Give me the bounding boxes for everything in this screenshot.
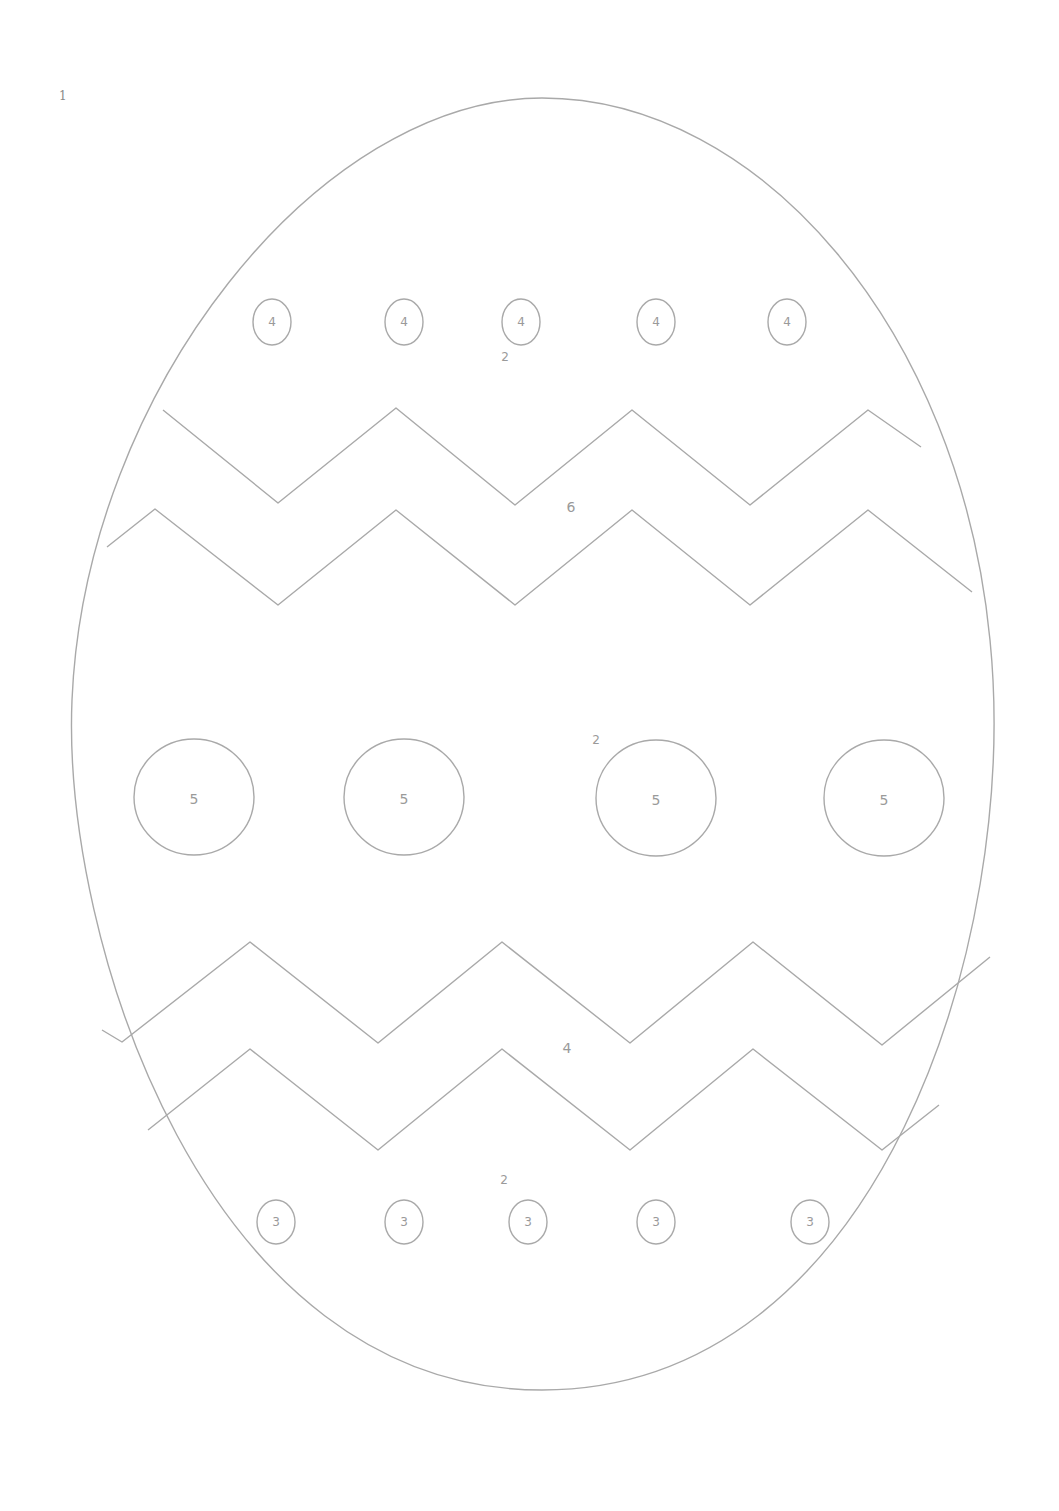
svg-text:3: 3 bbox=[400, 1215, 408, 1229]
upper-band-top-zigzag bbox=[163, 408, 921, 505]
dot-region: 4 bbox=[768, 299, 806, 345]
middle-dots-row: 5 5 5 5 bbox=[134, 739, 944, 856]
svg-text:3: 3 bbox=[806, 1215, 814, 1229]
dot-region: 4 bbox=[637, 299, 675, 345]
dot-region: 3 bbox=[791, 1200, 829, 1244]
dot-region: 4 bbox=[502, 299, 540, 345]
dot-region: 5 bbox=[596, 740, 716, 856]
svg-text:4: 4 bbox=[268, 315, 276, 329]
dot-region: 3 bbox=[637, 1200, 675, 1244]
bottom-dots-row: 3 3 3 3 3 bbox=[257, 1200, 829, 1244]
upper-band-bottom-zigzag bbox=[107, 509, 972, 605]
svg-text:4: 4 bbox=[517, 315, 525, 329]
region-label-bottom: 2 bbox=[500, 1173, 508, 1187]
dot-region: 3 bbox=[385, 1200, 423, 1244]
dot-region: 3 bbox=[509, 1200, 547, 1244]
dot-region: 3 bbox=[257, 1200, 295, 1244]
dot-region: 5 bbox=[824, 740, 944, 856]
egg-outline bbox=[72, 98, 994, 1390]
dot-region: 4 bbox=[385, 299, 423, 345]
region-label-upper-band: 6 bbox=[567, 499, 576, 515]
svg-text:5: 5 bbox=[880, 792, 889, 808]
svg-text:3: 3 bbox=[652, 1215, 660, 1229]
top-dots-row: 4 4 4 4 4 bbox=[253, 299, 806, 345]
region-label-middle: 2 bbox=[592, 733, 600, 747]
region-label-top: 2 bbox=[501, 350, 509, 364]
svg-text:3: 3 bbox=[524, 1215, 532, 1229]
dot-region: 5 bbox=[134, 739, 254, 855]
svg-text:3: 3 bbox=[272, 1215, 280, 1229]
dot-region: 5 bbox=[344, 739, 464, 855]
svg-text:4: 4 bbox=[400, 315, 408, 329]
region-label-lower-band: 4 bbox=[563, 1040, 572, 1056]
lower-band-top-zigzag bbox=[102, 942, 990, 1045]
coloring-canvas: 4 4 4 4 4 5 5 5 bbox=[0, 0, 1059, 1511]
lower-band-bottom-zigzag bbox=[148, 1049, 939, 1150]
svg-text:4: 4 bbox=[783, 315, 791, 329]
svg-text:5: 5 bbox=[652, 792, 661, 808]
svg-text:5: 5 bbox=[400, 791, 409, 807]
svg-text:5: 5 bbox=[190, 791, 199, 807]
svg-text:4: 4 bbox=[652, 315, 660, 329]
dot-region: 4 bbox=[253, 299, 291, 345]
